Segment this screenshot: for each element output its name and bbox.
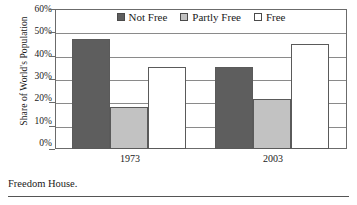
bar-1973-free bbox=[148, 67, 186, 149]
x-tick-label-1973: 1973 bbox=[100, 153, 160, 164]
bar-1973-partly-free bbox=[110, 107, 148, 149]
footer-divider bbox=[8, 196, 349, 197]
bar-1973-not-free bbox=[72, 39, 110, 149]
x-tick-label-2003: 2003 bbox=[243, 153, 303, 164]
y-tick-label-10: 10% bbox=[12, 117, 52, 127]
bar-group-2003 bbox=[215, 9, 330, 149]
figure: Share of World's Population 60% 50% 40% … bbox=[0, 0, 357, 205]
y-tick-mark-0 bbox=[49, 149, 55, 150]
source-note: Freedom House. bbox=[8, 178, 77, 189]
bar-2003-free bbox=[291, 44, 329, 149]
y-tick-label-0: 0% bbox=[12, 139, 52, 149]
bar-2003-not-free bbox=[215, 67, 253, 149]
y-tick-label-40: 40% bbox=[12, 50, 52, 60]
y-tick-label-30: 30% bbox=[12, 72, 52, 82]
bar-2003-partly-free bbox=[253, 99, 291, 149]
bars-layer bbox=[55, 9, 347, 149]
y-tick-label-20: 20% bbox=[12, 94, 52, 104]
bar-group-1973 bbox=[72, 9, 187, 149]
y-tick-label-60: 60% bbox=[12, 5, 52, 15]
y-tick-label-50: 50% bbox=[12, 27, 52, 37]
